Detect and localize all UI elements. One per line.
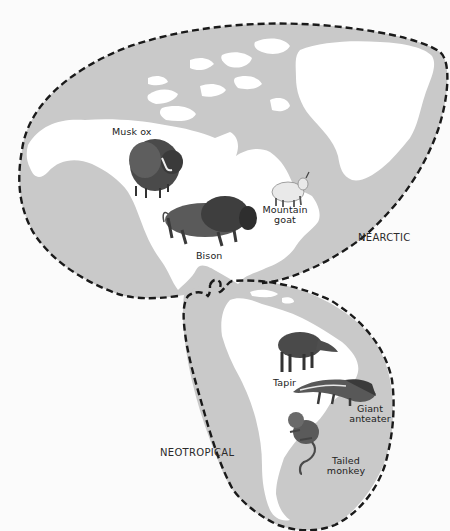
mountain-goat-label-line2: goat bbox=[258, 215, 312, 225]
tapir-label: Tapir bbox=[273, 378, 296, 388]
musk-ox-label: Musk ox bbox=[112, 127, 152, 137]
giant-anteater-label-line2: anteater bbox=[346, 414, 394, 424]
tailed-monkey-label: Tailed monkey bbox=[324, 456, 368, 476]
mountain-goat-label: Mountain goat bbox=[258, 205, 312, 225]
nearctic-realm-label: NEARCTIC bbox=[358, 232, 411, 243]
giant-anteater-label: Giant anteater bbox=[346, 404, 394, 424]
tailed-monkey-label-line2: monkey bbox=[324, 466, 368, 476]
neotropical-realm-label: NEOTROPICAL bbox=[160, 447, 234, 458]
bison-label: Bison bbox=[196, 251, 222, 261]
